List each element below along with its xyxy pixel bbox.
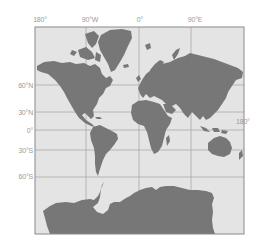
latitude-label-60n: 60°N [18, 82, 33, 90]
latitude-label-60s: 60°S [19, 173, 33, 181]
world-map [0, 0, 266, 247]
dateline-label-180: 180° [236, 118, 250, 126]
longitude-label-0: 0° [137, 16, 143, 24]
longitude-label-90e: 90°E [188, 16, 202, 24]
longitude-label-180: 180° [33, 16, 47, 24]
latitude-label-30n: 30°N [18, 109, 33, 117]
latitude-label-30s: 30°S [19, 147, 33, 155]
latitude-label-equator: 0° [27, 127, 33, 135]
longitude-label-90w: 90°W [82, 16, 98, 24]
